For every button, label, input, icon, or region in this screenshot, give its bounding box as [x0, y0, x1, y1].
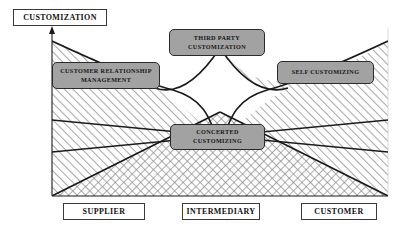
node-concerted-line1: CONCERTED [193, 128, 242, 137]
node-third-party-customization[interactable]: THIRD PARTY CUSTOMIZATION [169, 29, 265, 56]
x-axis-category-supplier-text: SUPPLIER [83, 207, 126, 216]
node-self-customizing[interactable]: SELF CUSTOMIZING [277, 61, 374, 84]
node-crm-line1: CUSTOMER RELATIONSHIP [60, 67, 152, 76]
x-axis-category-customer-text: CUSTOMER [314, 207, 363, 216]
diagram-canvas: CUSTOMIZATION CUSTOMER RELATIONSHIP MANA… [0, 0, 404, 232]
node-concerted-customizing[interactable]: CONCERTED CUSTOMIZING [170, 124, 265, 150]
node-self-line1: SELF CUSTOMIZING [292, 68, 360, 77]
node-concerted-line2: CUSTOMIZING [193, 137, 242, 146]
node-third-party-line1: THIRD PARTY [188, 34, 246, 43]
node-customer-relationship-management[interactable]: CUSTOMER RELATIONSHIP MANAGEMENT [52, 62, 160, 89]
node-crm-line2: MANAGEMENT [60, 76, 152, 85]
y-axis-label-text: CUSTOMIZATION [23, 13, 97, 22]
x-axis-category-intermediary-text: INTERMEDIARY [187, 207, 256, 216]
x-axis-category-supplier: SUPPLIER [63, 203, 145, 220]
x-axis-category-customer: CUSTOMER [301, 203, 377, 220]
x-axis-category-intermediary: INTERMEDIARY [182, 203, 260, 220]
y-axis-label-box: CUSTOMIZATION [13, 9, 107, 26]
node-third-party-line2: CUSTOMIZATION [188, 43, 246, 52]
